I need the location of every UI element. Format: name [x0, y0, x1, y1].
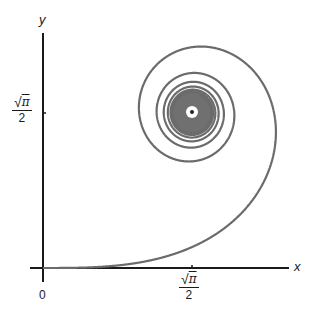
spiral-curve — [43, 47, 276, 268]
pi-symbol: π — [22, 96, 30, 109]
denominator: 2 — [18, 111, 25, 125]
y-axis-label: y — [39, 12, 46, 27]
denominator: 2 — [185, 288, 192, 302]
pi-symbol: π — [189, 273, 197, 286]
spiral-plot — [0, 0, 309, 312]
radical-sign: √ — [181, 273, 189, 286]
x-axis-label: x — [294, 259, 301, 274]
spiral-center-dot — [190, 110, 194, 114]
x-tick-label: √π 2 — [179, 273, 199, 302]
radical-sign: √ — [14, 96, 22, 109]
y-tick-label: √π 2 — [12, 96, 32, 125]
origin-label: 0 — [39, 288, 46, 302]
axes — [30, 33, 289, 282]
